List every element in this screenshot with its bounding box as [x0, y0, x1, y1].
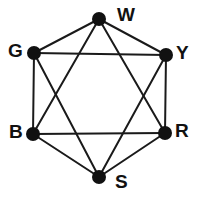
graph-vertex-r[interactable]: [158, 126, 172, 140]
vertex-label-s: S: [115, 172, 128, 191]
vertex-label-b: B: [9, 122, 23, 141]
vertex-label-r: R: [175, 121, 189, 140]
graph-diagram: WGYBRS: [0, 0, 198, 199]
vertex-label-y: Y: [176, 43, 189, 62]
graph-edge-g-y: [34, 53, 166, 55]
graph-edge-r-s: [99, 133, 165, 177]
graph-vertex-g[interactable]: [27, 46, 41, 60]
graph-edge-y-r: [165, 55, 166, 133]
vertex-label-g: G: [8, 41, 23, 60]
graph-edge-b-r: [33, 133, 165, 134]
graph-vertex-y[interactable]: [159, 48, 173, 62]
vertex-layer: [26, 12, 173, 184]
graph-vertex-b[interactable]: [26, 127, 40, 141]
edge-layer: [33, 19, 166, 177]
graph-edge-b-s: [33, 134, 99, 177]
graph-canvas: [0, 0, 198, 199]
graph-vertex-w[interactable]: [92, 12, 106, 26]
graph-vertex-s[interactable]: [92, 170, 106, 184]
vertex-label-w: W: [117, 5, 135, 24]
graph-edge-g-b: [33, 53, 34, 134]
